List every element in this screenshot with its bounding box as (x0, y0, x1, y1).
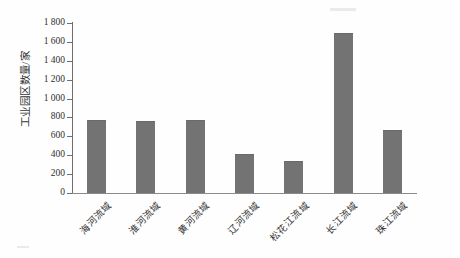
y-tick-label: 1 600 (21, 37, 65, 47)
y-tick-label: 1 800 (21, 18, 65, 28)
y-tick-label: 1 400 (21, 56, 65, 66)
x-axis-line (72, 193, 417, 194)
bar (87, 120, 106, 193)
y-tick-label: 0 (21, 188, 65, 198)
bar-chart-figure: 工业园区数量/家 02004006008001 0001 2001 4001 6… (0, 0, 460, 258)
y-tick-label: 800 (21, 112, 65, 122)
bar (334, 33, 353, 193)
bar (383, 130, 402, 193)
y-tick-label: 400 (21, 150, 65, 160)
plot-area (72, 23, 417, 193)
x-tick-label: 淮河流域 (125, 198, 164, 237)
scan-speck (330, 8, 356, 11)
x-tick-label: 辽河流域 (224, 198, 263, 237)
x-tick-label: 珠江流域 (372, 198, 411, 237)
y-tick-label: 200 (21, 169, 65, 179)
bar (235, 154, 254, 193)
x-tick-label: 黄河流域 (174, 198, 213, 237)
x-tick-label: 长江流域 (322, 198, 361, 237)
bar (186, 120, 205, 193)
scan-speck (17, 246, 29, 248)
y-tick-label: 600 (21, 131, 65, 141)
y-axis-title: 工业园区数量/家 (17, 34, 31, 144)
y-tick-mark (67, 193, 72, 194)
bar (284, 161, 303, 193)
y-tick-label: 1 000 (21, 94, 65, 104)
x-tick-label: 海河流域 (76, 198, 115, 237)
bar (136, 121, 155, 193)
x-tick-label: 松花江流域 (266, 198, 312, 244)
y-tick-label: 1 200 (21, 75, 65, 85)
